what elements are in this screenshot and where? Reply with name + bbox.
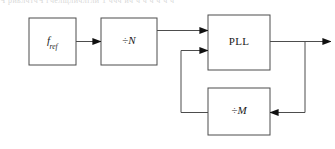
pll-label-text: PLL [229,35,249,47]
divide-by-n-variable: N [128,34,135,46]
reference-source-block-label: fref [29,34,76,49]
divide-by-m-variable: M [237,104,246,116]
divide-by-m-block-label: ÷M [208,104,270,116]
fref-subscript: ref [50,42,58,51]
block-diagram-figure: Ч риьлчтчЧ гчелщличлгли 1 ччч ич ч ч ч ч… [0,0,335,149]
divide-by-n-block-label: ÷N [101,34,157,46]
diagram-canvas [0,0,335,149]
pll-block-label: PLL [208,35,270,47]
